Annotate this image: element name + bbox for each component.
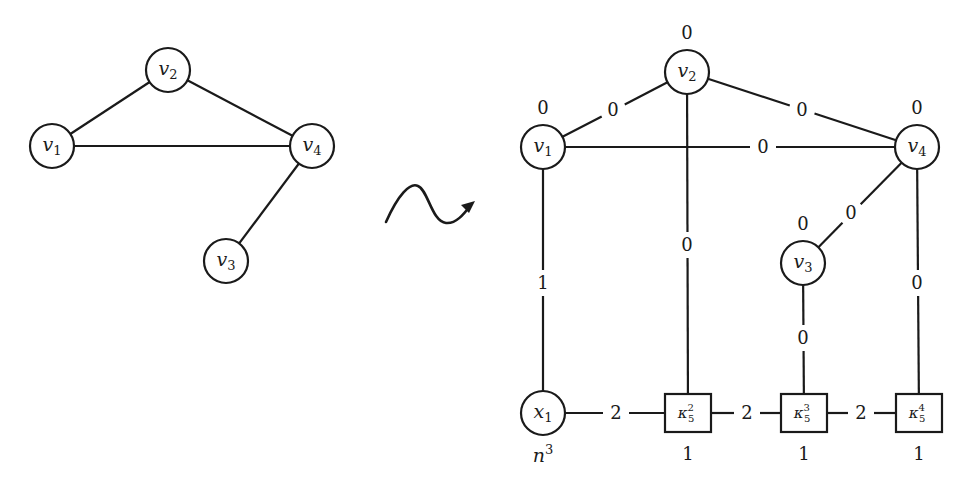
edge-v3-k3: 0 — [797, 285, 808, 394]
node-label-k4: κ45 — [908, 402, 926, 424]
edge-x1-k2: 2 — [565, 402, 665, 423]
right-graph: 00001000222v10v20v30v40x1n3κ251κ351κ451 — [521, 22, 942, 466]
node-weight-k3: 1 — [798, 443, 809, 464]
node-v2: v20 — [665, 22, 709, 94]
edge-weight-label: 0 — [607, 99, 618, 120]
edge-v1-v2: 0 — [563, 82, 668, 137]
edge-v2-v4 — [168, 70, 312, 146]
node-v4: v40 — [895, 97, 939, 169]
edge-v1-v4: 0 — [565, 136, 895, 157]
node-weight-v4: 0 — [911, 97, 922, 118]
edge-weight-label: 2 — [855, 402, 866, 423]
edge-v2-v4: 0 — [708, 79, 896, 140]
node-weight-k2: 1 — [682, 443, 693, 464]
node-v2: v2 — [146, 48, 190, 92]
edge-segment — [815, 114, 897, 141]
node-v1: v1 — [30, 124, 74, 168]
node-v4: v4 — [290, 124, 334, 168]
edge-weight-label: 2 — [741, 402, 752, 423]
edge-k3-k4: 2 — [827, 402, 896, 423]
edge-weight-label: 0 — [797, 327, 808, 348]
edge-weight-label: 0 — [757, 136, 768, 157]
left-graph: v1v2v3v4 — [30, 48, 334, 283]
edge-k2-k3: 2 — [711, 402, 781, 423]
edge-weight-label: 0 — [681, 234, 692, 255]
edge-weight-label: 0 — [845, 202, 856, 223]
edge-segment — [918, 296, 919, 394]
node-weight-v1: 0 — [537, 97, 548, 118]
edge-weight-label: 1 — [537, 272, 548, 293]
node-k3: κ351 — [781, 394, 827, 464]
node-weight-v2: 0 — [681, 22, 692, 43]
edge-v1-x1: 1 — [537, 169, 548, 391]
node-weight-v3: 0 — [797, 213, 808, 234]
node-x1: x1n3 — [521, 391, 565, 466]
node-weight-k4: 1 — [913, 443, 924, 464]
squiggle-arrow-icon — [386, 185, 475, 223]
edge-v4-k4: 0 — [911, 169, 922, 394]
node-label-k2: κ25 — [677, 402, 695, 424]
node-weight-x1: n3 — [533, 442, 554, 467]
edge-weight-label: 0 — [911, 272, 922, 293]
node-k2: κ251 — [665, 394, 711, 464]
node-v1: v10 — [521, 97, 565, 169]
node-v3: v3 — [204, 239, 248, 283]
edge-segment — [625, 82, 668, 104]
graph-reduction-diagram: v1v2v3v4 00001000222v10v20v30v40x1n3κ251… — [0, 0, 968, 493]
edge-segment — [861, 163, 902, 205]
node-k4: κ451 — [896, 394, 942, 464]
edge-segment — [563, 116, 602, 136]
edge-weight-label: 2 — [610, 402, 621, 423]
node-label-k3: κ35 — [793, 402, 811, 424]
edge-segment — [917, 169, 918, 270]
edge-segment — [818, 223, 842, 247]
edge-segment — [708, 79, 790, 106]
edge-v2-k2: 0 — [681, 94, 692, 394]
node-v3: v30 — [781, 213, 825, 285]
edge-weight-label: 0 — [796, 99, 807, 120]
edge-v4-v3: 0 — [818, 163, 901, 248]
